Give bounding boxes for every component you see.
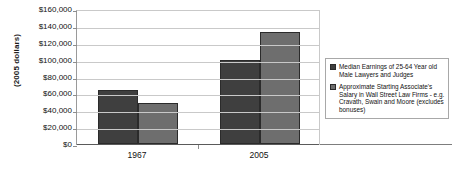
legend-item: Median Earnings of 25-64 Year old Male L… bbox=[329, 63, 445, 78]
y-axis-tick bbox=[73, 62, 77, 63]
y-axis-tick-label: $60,000 bbox=[43, 90, 72, 98]
legend-swatch-series-2 bbox=[330, 84, 336, 90]
y-axis-tick-label: $80,000 bbox=[43, 74, 72, 82]
legend-label-series-1: Median Earnings of 25-64 Year old Male L… bbox=[339, 63, 445, 78]
y-axis-tick bbox=[73, 112, 77, 113]
gridline bbox=[77, 79, 319, 80]
legend-swatch-series-1 bbox=[330, 64, 336, 70]
gridline bbox=[77, 95, 319, 96]
plot-area bbox=[76, 10, 320, 145]
y-axis-tick bbox=[73, 129, 77, 130]
y-axis-tick-label: $140,000 bbox=[39, 23, 72, 31]
y-axis-tick-labels: $0$20,000$40,000$60,000$80,000$100,000$1… bbox=[20, 10, 72, 145]
x-axis-label: 2005 bbox=[198, 150, 320, 160]
y-axis-tick-label: $120,000 bbox=[39, 40, 72, 48]
y-axis-tick bbox=[73, 28, 77, 29]
legend-item: Approximate Starting Associate's Salary … bbox=[329, 83, 445, 113]
bar-group bbox=[199, 11, 321, 144]
gridline bbox=[77, 112, 319, 113]
y-axis-tick-label: $40,000 bbox=[43, 107, 72, 115]
bar-series-2 bbox=[138, 103, 178, 144]
legend-label-series-2: Approximate Starting Associate's Salary … bbox=[339, 83, 445, 113]
bar-groups bbox=[77, 11, 319, 144]
bar-series-1 bbox=[98, 90, 138, 144]
y-axis-tick-label: $100,000 bbox=[39, 57, 72, 65]
x-axis-line-extension bbox=[320, 144, 452, 145]
y-axis-tick bbox=[73, 45, 77, 46]
gridline bbox=[77, 62, 319, 63]
gridline bbox=[77, 45, 319, 46]
bar-chart: (2005 dollars) $0$20,000$40,000$60,000$8… bbox=[0, 0, 455, 173]
y-axis-tick bbox=[73, 79, 77, 80]
x-axis-label: 1967 bbox=[76, 150, 198, 160]
y-axis-tick bbox=[73, 11, 77, 12]
y-axis-tick-label: $0 bbox=[63, 141, 72, 149]
y-axis-tick-label: $20,000 bbox=[43, 124, 72, 132]
y-axis-tick-label: $160,000 bbox=[39, 6, 72, 14]
gridline bbox=[77, 28, 319, 29]
y-axis-tick bbox=[73, 95, 77, 96]
chart-legend: Median Earnings of 25-64 Year old Male L… bbox=[325, 58, 449, 119]
x-axis-tick bbox=[198, 145, 199, 149]
bar-group bbox=[77, 11, 199, 144]
y-axis-tick bbox=[73, 146, 77, 147]
bar-series-2 bbox=[260, 32, 300, 144]
bar-series-1 bbox=[220, 60, 260, 144]
gridline bbox=[77, 129, 319, 130]
